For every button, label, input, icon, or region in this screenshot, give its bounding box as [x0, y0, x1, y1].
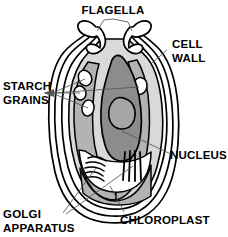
label-golgi-apparatus-line1: GOLGI [3, 208, 41, 220]
cell-diagram-canvas: FLAGELLA CELL WALL STARCH GRAINS NUCLEUS… [0, 0, 228, 237]
label-golgi-apparatus-line2: APPARATUS [3, 222, 75, 234]
label-cell-wall-line1: CELL [172, 38, 203, 50]
label-starch-grains-line2: GRAINS [3, 94, 49, 106]
label-chloroplast: CHLOROPLAST [120, 214, 210, 226]
cell-diagram: FLAGELLA CELL WALL STARCH GRAINS NUCLEUS… [0, 0, 228, 237]
label-cell-wall-line2: WALL [172, 52, 205, 64]
label-flagella: FLAGELLA [82, 4, 145, 16]
label-nucleus: NUCLEUS [170, 149, 227, 161]
nucleolus [109, 98, 135, 129]
label-starch-grains-line1: STARCH [3, 80, 51, 92]
